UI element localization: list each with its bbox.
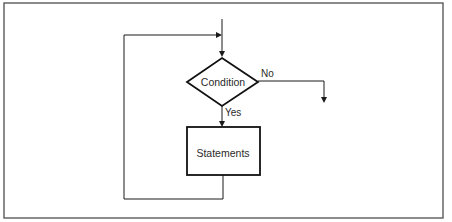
no-arrowhead-icon: [321, 97, 327, 103]
condition-label: Condition: [201, 77, 245, 88]
no-edge: [258, 81, 324, 98]
entry-arrowhead-icon: [219, 51, 225, 57]
loop-back-arrowhead-icon: [216, 32, 222, 38]
statements-label: Statements: [196, 148, 249, 159]
no-edge-label: No: [261, 69, 274, 79]
yes-arrowhead-icon: [219, 121, 225, 127]
yes-edge-label: Yes: [225, 108, 241, 118]
